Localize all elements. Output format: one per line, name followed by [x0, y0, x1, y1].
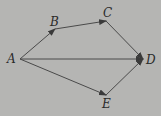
- label-point-D: D: [145, 53, 156, 67]
- vector-ED: [106, 59, 143, 95]
- vector-BC: [55, 21, 106, 29]
- vector-diagram: ABCDE: [0, 0, 161, 116]
- vector-AE: [20, 59, 106, 95]
- label-point-B: B: [49, 15, 59, 29]
- vector-CD: [106, 21, 143, 59]
- label-point-E: E: [101, 97, 111, 111]
- label-point-C: C: [103, 6, 112, 20]
- label-point-A: A: [6, 52, 16, 66]
- edges: [20, 21, 143, 95]
- vector-AB: [20, 29, 55, 59]
